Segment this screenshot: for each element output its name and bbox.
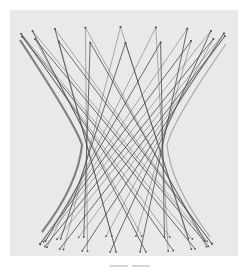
bottom-anchor-point: [83, 236, 85, 238]
top-anchor-point: [89, 42, 91, 44]
string-line: [126, 43, 189, 239]
top-anchor-point: [224, 35, 226, 37]
top-anchor-point: [190, 40, 192, 42]
string-line: [64, 27, 121, 250]
bottom-anchor-point: [164, 236, 166, 238]
bottom-anchor-point: [46, 246, 48, 248]
bottom-anchor-point: [78, 236, 80, 238]
string-line: [40, 41, 191, 244]
string-line: [44, 31, 211, 242]
string-line: [33, 31, 208, 241]
top-anchor-point: [58, 40, 60, 42]
top-anchor-point: [160, 42, 162, 44]
string-line: [156, 27, 168, 251]
bottom-anchor-point: [167, 250, 169, 252]
string-line: [22, 37, 195, 249]
bottom-anchor-point: [111, 235, 113, 237]
hyperboloid-string-model: [0, 0, 248, 275]
top-anchor-point: [210, 30, 212, 32]
caption-mark: [132, 265, 150, 267]
string-line: [110, 31, 211, 252]
top-anchor-point: [85, 27, 87, 29]
string-line: [21, 34, 173, 251]
bottom-anchor-point: [59, 248, 61, 250]
string-line: [21, 34, 192, 239]
string-line: [57, 33, 224, 239]
top-anchor-point: [213, 38, 215, 40]
top-anchor-point: [120, 26, 122, 28]
bottom-anchor-point: [145, 251, 147, 253]
bottom-anchor-point: [60, 238, 62, 240]
bottom-anchor-point: [45, 240, 47, 242]
string-line: [106, 39, 213, 236]
bottom-anchor-point: [204, 240, 206, 242]
bottom-anchor-point: [135, 235, 137, 237]
hyperboloid-photo: [10, 10, 238, 256]
bottom-anchor-point: [169, 236, 171, 238]
top-anchor-point: [20, 33, 22, 35]
top-anchor-point: [34, 38, 36, 40]
top-anchor-point: [125, 42, 127, 44]
string-line: [61, 43, 126, 239]
bottom-anchor-point: [43, 241, 45, 243]
bottom-anchor-point: [192, 238, 194, 240]
bottom-anchor-point: [141, 235, 143, 237]
top-anchor-point: [54, 28, 56, 30]
bottom-anchor-point: [81, 250, 83, 252]
bottom-anchor-point: [188, 238, 190, 240]
caption-mark: [110, 265, 128, 267]
bottom-anchor-point: [190, 248, 192, 250]
bottom-anchor-point: [109, 251, 111, 253]
bottom-anchor-point: [139, 251, 141, 253]
bottom-anchor-point: [172, 250, 174, 252]
bottom-anchor-point: [105, 235, 107, 237]
bottom-anchor-point: [115, 251, 117, 253]
string-line: [45, 39, 214, 247]
bottom-anchor-point: [39, 244, 41, 246]
bottom-anchor-point: [194, 248, 196, 250]
figure-caption: [100, 262, 160, 270]
bottom-anchor-point: [44, 246, 46, 248]
top-anchor-point: [186, 28, 188, 30]
bottom-anchor-point: [56, 238, 58, 240]
top-anchor-point: [32, 30, 34, 32]
bottom-anchor-point: [208, 245, 210, 247]
bottom-anchor-point: [87, 250, 89, 252]
top-anchor-point: [223, 33, 225, 35]
bottom-anchor-point: [63, 249, 65, 251]
bottom-anchor-point: [211, 243, 213, 245]
top-anchor-point: [21, 36, 23, 38]
bottom-anchor-point: [206, 240, 208, 242]
top-anchor-point: [155, 27, 157, 29]
string-line: [79, 36, 225, 237]
bottom-anchor-point: [206, 246, 208, 248]
